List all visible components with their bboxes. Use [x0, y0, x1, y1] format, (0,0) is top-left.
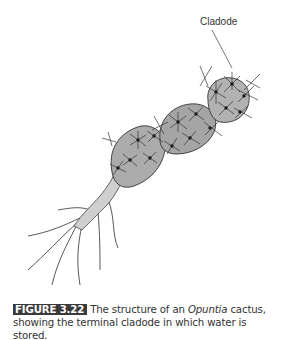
caption-genus-name: Opuntia	[188, 304, 227, 315]
figure-caption: FIGURE 3.22The structure of an Opuntia c…	[13, 303, 281, 340]
middle-cladode	[160, 104, 216, 154]
figure-number-label: FIGURE 3.22	[13, 304, 87, 315]
cladode-callout-label: Cladode	[200, 16, 237, 27]
terminal-cladode	[208, 78, 249, 123]
opuntia-cactus-illustration	[0, 0, 281, 300]
caption-text-before: The structure of an	[90, 304, 188, 315]
callout-pointer	[212, 30, 232, 68]
roots	[28, 200, 118, 285]
